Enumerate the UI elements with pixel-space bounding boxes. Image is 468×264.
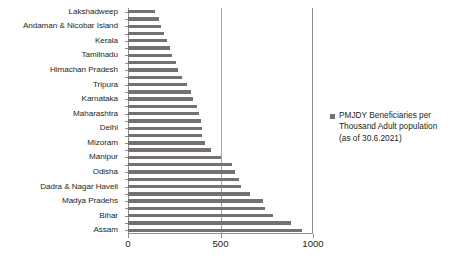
- category-tick: [125, 92, 128, 93]
- bar: [128, 134, 202, 137]
- bar-row: [128, 76, 313, 79]
- bar: [128, 83, 187, 86]
- category-label: Bihar: [99, 211, 118, 220]
- bar-row: [128, 54, 313, 57]
- bar: [128, 39, 167, 42]
- bar-row: [128, 192, 313, 195]
- bar-row: [128, 156, 313, 159]
- category-label: Tripura: [93, 80, 118, 89]
- category-tick: [125, 63, 128, 64]
- bar: [128, 163, 232, 166]
- category-label: Dadra & Nagar Haveli: [40, 182, 118, 191]
- category-label: Himachan Pradesh: [50, 65, 118, 74]
- bar-chart: LakshadweepAndaman & Nicobar IslandKeral…: [0, 0, 468, 264]
- category-tick: [125, 121, 128, 122]
- bar: [128, 221, 291, 224]
- bar-row: [128, 170, 313, 173]
- bar-row: [128, 46, 313, 49]
- category-label: Lakshadweep: [69, 7, 118, 16]
- bar: [128, 17, 159, 20]
- bar-row: [128, 229, 313, 232]
- bar: [128, 105, 197, 108]
- bar: [128, 127, 202, 130]
- bar: [128, 214, 273, 217]
- bar: [128, 207, 265, 210]
- bar-row: [128, 185, 313, 188]
- bar-row: [128, 199, 313, 202]
- bar: [128, 119, 201, 122]
- category-label: Tamilnadu: [82, 50, 118, 59]
- category-label: Kerala: [95, 36, 118, 45]
- category-tick: [125, 208, 128, 209]
- category-label: Madya Pradehs: [62, 196, 118, 205]
- category-tick: [125, 48, 128, 49]
- bar: [128, 170, 235, 173]
- category-tick: [125, 70, 128, 71]
- category-tick: [125, 143, 128, 144]
- category-tick: [125, 106, 128, 107]
- category-tick: [125, 114, 128, 115]
- bar: [128, 90, 191, 93]
- bar: [128, 156, 221, 159]
- bar: [128, 178, 239, 181]
- value-tick-label: 0: [125, 238, 130, 250]
- category-tick: [125, 165, 128, 166]
- legend-line-1: PMJDY Beneficiaries per: [339, 110, 464, 121]
- legend-line-2: Thousand Adult population: [339, 121, 464, 132]
- category-tick: [125, 216, 128, 217]
- bar: [128, 141, 205, 144]
- legend-text: PMJDY Beneficiaries per Thousand Adult p…: [330, 110, 464, 144]
- bar-row: [128, 68, 313, 71]
- chart-legend: PMJDY Beneficiaries per Thousand Adult p…: [330, 110, 464, 144]
- bar: [128, 76, 182, 79]
- bar: [128, 46, 170, 49]
- plot-area: [128, 8, 313, 234]
- bar-row: [128, 134, 313, 137]
- bar: [128, 185, 241, 188]
- bar-row: [128, 119, 313, 122]
- bar-row: [128, 178, 313, 181]
- bar: [128, 148, 211, 151]
- bar: [128, 199, 263, 202]
- category-tick: [125, 77, 128, 78]
- legend-marker-icon: [330, 114, 335, 119]
- category-tick: [125, 55, 128, 56]
- category-label: Odisha: [93, 167, 118, 176]
- category-tick: [125, 179, 128, 180]
- category-tick: [125, 157, 128, 158]
- bar: [128, 61, 176, 64]
- bar-row: [128, 127, 313, 130]
- category-tick: [125, 12, 128, 13]
- category-tick: [125, 34, 128, 35]
- category-label: Manipur: [89, 152, 118, 161]
- category-tick: [125, 194, 128, 195]
- bar-row: [128, 25, 313, 28]
- bar: [128, 32, 164, 35]
- bar-row: [128, 148, 313, 151]
- bar: [128, 10, 155, 13]
- category-tick: [125, 99, 128, 100]
- bar: [128, 229, 302, 232]
- bar-row: [128, 61, 313, 64]
- category-axis: LakshadweepAndaman & Nicobar IslandKeral…: [0, 8, 122, 234]
- category-tick: [125, 201, 128, 202]
- bar: [128, 112, 199, 115]
- bar-row: [128, 90, 313, 93]
- value-tick-label: 500: [212, 238, 228, 250]
- legend-line-3: (as of 30.6.2021): [339, 133, 464, 144]
- bar: [128, 97, 193, 100]
- bar: [128, 54, 172, 57]
- bar-row: [128, 105, 313, 108]
- bar-row: [128, 112, 313, 115]
- category-tick: [125, 230, 128, 231]
- bar-row: [128, 83, 313, 86]
- category-label: Delhi: [100, 123, 118, 132]
- bar-row: [128, 221, 313, 224]
- category-label: Karnataka: [82, 94, 118, 103]
- category-label: Assam: [94, 225, 119, 234]
- category-tick: [125, 26, 128, 27]
- bar-row: [128, 214, 313, 217]
- category-tick: [125, 19, 128, 20]
- bar-row: [128, 207, 313, 210]
- bar-row: [128, 163, 313, 166]
